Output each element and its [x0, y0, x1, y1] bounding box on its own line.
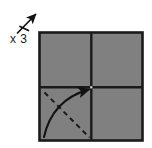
origami-diagram: x 3: [0, 0, 152, 148]
repeat-arrow-icon: [18, 15, 36, 34]
repeat-count-label: x 3: [10, 32, 28, 46]
quadrant-top-right: [94, 34, 141, 85]
diagram-canvas: [0, 0, 152, 148]
quadrant-top-left: [41, 34, 89, 85]
quadrant-bottom-right: [94, 90, 141, 139]
paper-square: [40, 33, 143, 141]
quadrant-bottom-left: [41, 90, 89, 139]
crease-center-pip: [90, 86, 92, 88]
